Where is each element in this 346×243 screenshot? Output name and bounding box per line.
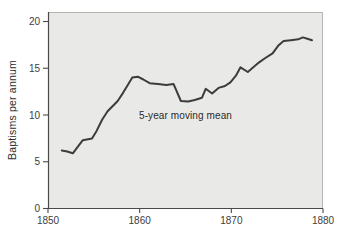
series-annotation: 5-year moving mean xyxy=(139,110,232,121)
chart-figure: Baptisms per annum 5-year moving mean 05… xyxy=(0,0,346,243)
x-tick-label: 1870 xyxy=(216,215,246,226)
x-tick-label: 1880 xyxy=(308,215,338,226)
chart-canvas xyxy=(0,0,346,243)
y-tick-label: 10 xyxy=(18,110,40,121)
x-tick-label: 1860 xyxy=(125,215,155,226)
y-tick-label: 5 xyxy=(18,156,40,167)
y-tick-label: 0 xyxy=(18,203,40,214)
y-tick-label: 15 xyxy=(18,63,40,74)
y-tick-label: 20 xyxy=(18,16,40,27)
x-tick-label: 1850 xyxy=(33,215,63,226)
